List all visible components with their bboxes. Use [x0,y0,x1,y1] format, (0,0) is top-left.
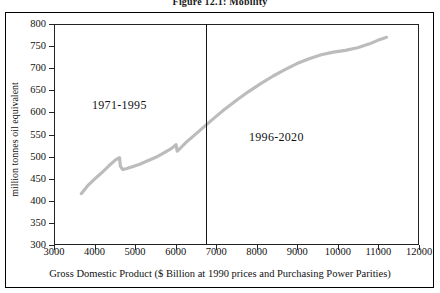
x-tick-mark [216,245,217,250]
y-tick-label: 500 [0,151,46,162]
x-tick-mark [378,245,379,250]
x-tick-mark [419,245,420,250]
figure-caption: Figure 12.1: Mobility [0,0,440,7]
y-tick-label: 350 [0,218,46,229]
y-tick-label: 550 [0,129,46,140]
x-tick-mark [135,245,136,250]
y-tick-label: 750 [0,41,46,52]
x-tick-mark [95,245,96,250]
y-axis-title: million tonnes oil equivalent [9,50,20,230]
x-tick-mark [297,245,298,250]
x-tick-mark [257,245,258,250]
y-tick-label: 300 [0,240,46,251]
y-tick-label: 800 [0,19,46,30]
x-tick-mark [54,245,55,250]
y-tick-label: 700 [0,63,46,74]
y-tick-label: 400 [0,196,46,207]
series-line-mobility [55,25,418,244]
y-tick-label: 650 [0,85,46,96]
plot-area [54,24,419,245]
x-tick-mark [176,245,177,250]
y-tick-label: 600 [0,107,46,118]
y-tick-label: 450 [0,173,46,184]
annotation-1971-1995: 1971-1995 [92,98,147,113]
era-divider-line [206,24,207,245]
figure-root: Figure 12.1: Mobility 300350400450500550… [0,0,440,293]
x-axis-title: Gross Domestic Product ($ Billion at 199… [0,268,440,279]
annotation-1996-2020: 1996-2020 [249,130,304,145]
x-tick-mark [338,245,339,250]
